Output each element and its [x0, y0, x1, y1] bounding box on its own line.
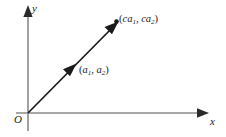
figure-canvas — [0, 0, 226, 137]
vector-mid-arrowhead — [63, 64, 77, 77]
y-axis-label: y — [32, 3, 37, 14]
x-axis-arrowhead — [197, 108, 209, 117]
point-label-ca: (ca1, ca2) — [119, 14, 158, 25]
x-axis-label: x — [210, 116, 215, 127]
sub-a1: 1 — [88, 69, 92, 77]
point-label-a: (a1, a2) — [79, 65, 109, 76]
paren-close: ) — [155, 13, 159, 24]
var-ca1: ca — [123, 13, 133, 24]
var-ca2: ca — [141, 13, 151, 24]
paren-close: ) — [105, 64, 109, 75]
origin-label: O — [14, 114, 22, 125]
scalar-multiple-vector-figure: y x O (a1, a2) (ca1, ca2) — [0, 0, 226, 137]
var-a2: a — [97, 64, 102, 75]
var-a1: a — [83, 64, 88, 75]
sub-a2: 2 — [102, 69, 106, 77]
sub-ca1: 1 — [132, 18, 136, 26]
sub-ca2: 2 — [151, 18, 155, 26]
